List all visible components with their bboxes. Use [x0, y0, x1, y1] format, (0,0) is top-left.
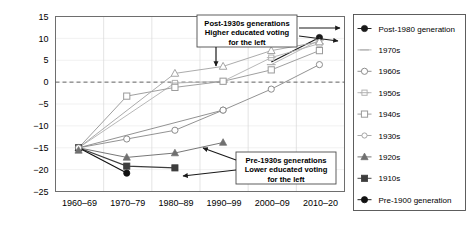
legend-box — [354, 15, 466, 211]
x-tick-label: 1990–99 — [207, 198, 242, 208]
legend-item-label: 1950s — [379, 89, 401, 98]
legend-item-label: Post-1980 generation — [379, 25, 456, 34]
chart-figure: −25−20−15−10−5051015 1960–691970–791980–… — [0, 0, 470, 225]
callout-line: Pre-1930s generations — [245, 156, 326, 165]
x-tick-label: 2010–20 — [303, 198, 338, 208]
y-tick-label: 10 — [38, 34, 48, 44]
legend-item-label: 1920s — [379, 153, 401, 162]
line-chart-canvas: −25−20−15−10−5051015 1960–691970–791980–… — [0, 0, 470, 225]
legend-item-label: 1930s — [379, 132, 401, 141]
y-tick-label: −15 — [33, 143, 48, 153]
chart-legend: Post-1980 generation1970s1960s1950s1940s… — [354, 15, 466, 211]
y-tick-label: −10 — [33, 121, 48, 131]
y-tick-label: −25 — [33, 187, 48, 197]
legend-item-label: 1910s — [379, 174, 401, 183]
x-tick-label: 2000–09 — [255, 198, 290, 208]
callout-line: Higher educated voting — [205, 28, 290, 37]
y-tick-label: −5 — [38, 99, 48, 109]
callout-line: for the left — [228, 38, 266, 47]
legend-item-label: 1970s — [379, 46, 401, 55]
callout-line: Lower educated voting — [245, 165, 328, 174]
callout-pre-1930s: Pre-1930s generationsLower educated voti… — [236, 152, 336, 184]
legend-item-label: 1940s — [379, 110, 401, 119]
y-tick-label: 15 — [38, 12, 48, 22]
callout-line: for the left — [267, 175, 305, 184]
callout-line: Post-1930s generations — [204, 19, 289, 28]
x-tick-label: 1980–89 — [158, 198, 193, 208]
legend-item-label: Pre-1900 generation — [379, 196, 452, 205]
x-tick-label: 1960–69 — [62, 198, 97, 208]
y-tick-label: 5 — [43, 55, 48, 65]
legend-item-label: 1960s — [379, 67, 401, 76]
y-tick-label: 0 — [43, 77, 48, 87]
y-tick-label: −20 — [33, 165, 48, 175]
x-tick-label: 1970–79 — [110, 198, 145, 208]
callout-post-1930s: Post-1930s generationsHigher educated vo… — [197, 15, 297, 47]
